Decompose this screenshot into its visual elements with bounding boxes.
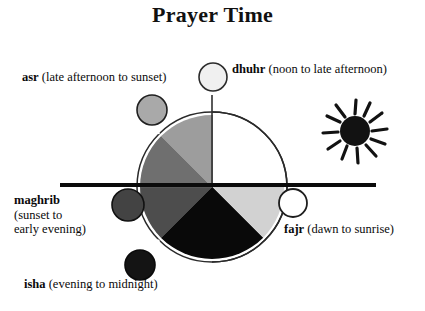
label-maghrib-name: maghrib [14, 193, 109, 208]
label-dhuhr-name: dhuhr [232, 62, 265, 76]
crescent-moon-icon [345, 247, 370, 297]
label-isha-name: isha [24, 277, 46, 291]
label-asr-desc: (late afternoon to sunset) [42, 70, 167, 84]
prayer-time-figure: Prayer Time [0, 0, 425, 311]
label-asr-name: asr [22, 70, 39, 84]
label-fajr: fajr (dawn to sunrise) [284, 222, 394, 236]
prayer-time-diagram [0, 0, 425, 311]
label-dhuhr-desc: (noon to late afternoon) [268, 62, 386, 76]
label-maghrib-desc-line1: (sunset to [14, 208, 109, 223]
label-isha-desc: (evening to midnight) [49, 277, 158, 291]
marker-asr[interactable] [137, 95, 167, 125]
marker-maghrib[interactable] [112, 189, 144, 221]
label-maghrib-desc-line2: early evening) [14, 222, 109, 237]
marker-isha[interactable] [125, 250, 155, 280]
label-fajr-name: fajr [284, 222, 304, 236]
marker-fajr[interactable] [279, 189, 307, 217]
label-asr: asr (late afternoon to sunset) [22, 70, 166, 84]
label-fajr-desc: (dawn to sunrise) [307, 222, 394, 236]
label-dhuhr: dhuhr (noon to late afternoon) [232, 62, 387, 76]
label-isha: isha (evening to midnight) [24, 277, 158, 291]
marker-dhuhr[interactable] [199, 63, 227, 91]
label-maghrib: maghrib (sunset to early evening) [14, 193, 109, 237]
sun-icon [323, 100, 387, 163]
